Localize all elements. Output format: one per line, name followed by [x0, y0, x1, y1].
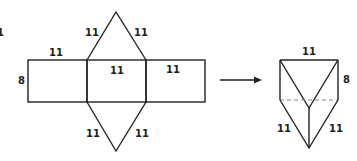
triangular-prism: 11 8 11 11	[277, 46, 350, 148]
prism-bottom-right-label: 11	[329, 123, 343, 134]
bottom-triangle	[87, 102, 146, 151]
prism-front-triangle	[280, 60, 338, 108]
left-rect-top-label: 11	[49, 47, 63, 58]
prism-bottom-left-label: 11	[277, 123, 291, 134]
prism-height-label: 8	[343, 74, 350, 85]
top-triangle-left-label: 11	[85, 27, 99, 38]
bottom-triangle-right-label: 11	[135, 128, 149, 139]
corner-mark: 1	[0, 27, 4, 38]
left-rect-height-label: 8	[18, 75, 25, 86]
prism-net: 11 11 11 8 11 11 11 11	[18, 12, 205, 151]
top-triangle-right-label: 11	[134, 27, 148, 38]
prism-top-label: 11	[302, 46, 316, 57]
prism-net-diagram: 1 11 11 11 8 11 11 11 11 11 8 11 11	[0, 0, 357, 161]
left-rectangle	[28, 60, 87, 102]
right-rect-top-label: 11	[166, 64, 180, 75]
bottom-triangle-left-label: 11	[86, 128, 100, 139]
fold-arrow-icon	[220, 77, 262, 84]
center-rect-top-label: 11	[110, 65, 124, 76]
